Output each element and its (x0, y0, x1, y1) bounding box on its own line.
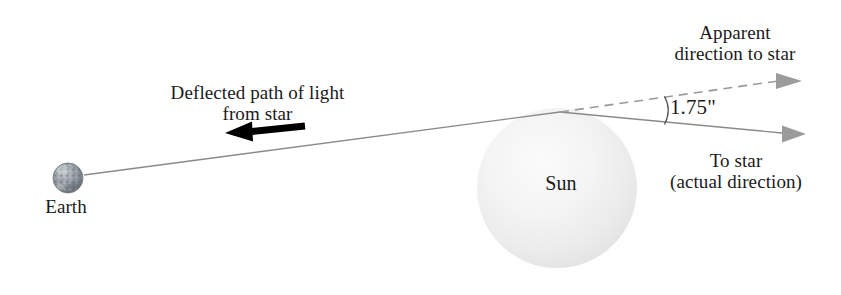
apparent-direction-ray-line (560, 81, 778, 112)
deflected-path-label-line1: Deflected path of light (171, 82, 345, 103)
deflection-angle-label: 1.75" (670, 96, 740, 120)
deflection-of-starlight-diagram: Earth Deflected path of lightfrom star A… (0, 0, 841, 295)
deflected-path-label: Deflected path of lightfrom star (150, 82, 365, 125)
earth-sphere (53, 163, 83, 193)
deflected-path-label-line2: from star (222, 103, 292, 124)
to-star-label-line1: To star (710, 150, 763, 171)
earth-label: Earth (18, 196, 114, 217)
sun-label: Sun (516, 172, 606, 194)
apparent-direction-label-line1: Apparent (699, 22, 771, 43)
apparent-direction-label-line2: direction to star (675, 43, 796, 64)
actual-direction-arrowhead (782, 126, 806, 143)
to-star-label-line2: (actual direction) (670, 171, 802, 192)
deflection-angle-arc (665, 97, 669, 125)
to-star-label: To star(actual direction) (638, 150, 834, 193)
apparent-direction-label: Apparentdirection to star (640, 22, 830, 65)
apparent-direction-arrowhead (776, 73, 802, 89)
